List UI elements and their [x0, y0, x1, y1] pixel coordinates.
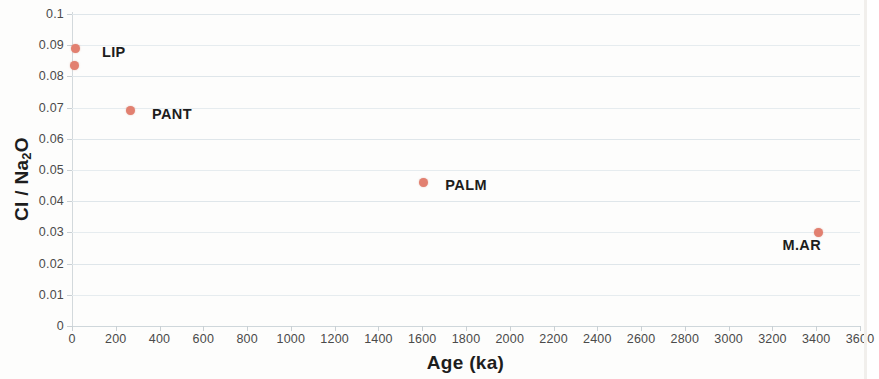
data-point — [814, 228, 823, 237]
x-axis-tick — [641, 326, 642, 331]
data-point — [70, 61, 79, 70]
x-axis-tick — [554, 326, 555, 331]
x-axis-title: Age (ka) — [0, 352, 867, 374]
data-point-label: M.AR — [782, 237, 821, 253]
x-axis-tick — [685, 326, 686, 331]
y-axis-title-text: Cl / Na — [11, 160, 32, 221]
plot-area: LIPPANTPALMM.AR — [72, 14, 860, 326]
x-axis-tick-label: 3600 — [830, 333, 879, 346]
y-axis-title-subscript: 2 — [19, 152, 34, 160]
y-axis-tick-label: 0.01 — [0, 289, 64, 302]
x-axis-tick — [160, 326, 161, 331]
y-axis-tick-label: 0.09 — [0, 39, 64, 52]
y-axis-title: Cl / Na2O — [11, 79, 33, 279]
x-axis-tick — [466, 326, 467, 331]
x-axis-tick — [116, 326, 117, 331]
y-axis-tick-label: 0 — [0, 320, 64, 333]
x-axis-tick — [816, 326, 817, 331]
x-axis-tick — [72, 326, 73, 331]
x-axis-tick — [597, 326, 598, 331]
data-point-label: PANT — [152, 106, 192, 122]
x-axis-tick — [378, 326, 379, 331]
data-point-label: PALM — [445, 177, 487, 193]
x-axis-tick — [510, 326, 511, 331]
x-axis-tick — [422, 326, 423, 331]
data-point — [71, 44, 80, 53]
x-axis-title-text: Age (ka) — [427, 352, 504, 374]
page-edge — [864, 0, 867, 379]
y-axis-tick-label: 0.1 — [0, 8, 64, 21]
x-axis-tick — [335, 326, 336, 331]
data-point — [419, 178, 428, 187]
x-axis-tick — [247, 326, 248, 331]
data-point-label: LIP — [102, 44, 126, 60]
x-axis-tick — [860, 326, 861, 331]
x-axis-tick — [203, 326, 204, 331]
x-axis-tick — [729, 326, 730, 331]
y-axis-title-tail: O — [11, 137, 32, 152]
x-axis-tick — [291, 326, 292, 331]
x-axis-tick — [772, 326, 773, 331]
data-point — [126, 106, 135, 115]
